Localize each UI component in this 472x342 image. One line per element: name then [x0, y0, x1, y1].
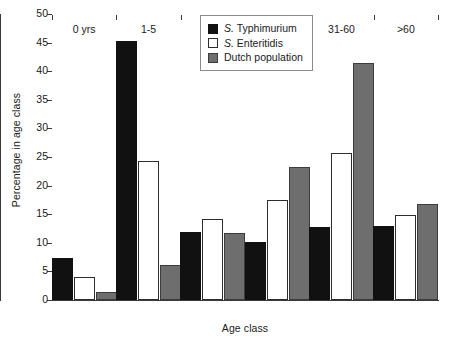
- y-axis-tick-label: 25: [36, 150, 48, 163]
- legend-item: S. Enteritidis: [208, 36, 303, 50]
- legend-swatch-icon: [208, 53, 218, 63]
- legend-item: Dutch population: [208, 51, 303, 65]
- legend-swatch-icon: [208, 38, 218, 48]
- bar: [138, 161, 159, 300]
- bar: [116, 41, 137, 300]
- bar: [373, 226, 394, 300]
- legend-item: S. Typhimurium: [208, 22, 303, 36]
- y-axis-tick-label: 30: [36, 121, 48, 134]
- legend-item-label: Dutch population: [224, 51, 303, 64]
- x-axis-tick-mark: [116, 15, 117, 20]
- bar: [74, 277, 95, 300]
- bar: [245, 242, 266, 300]
- bar: [309, 227, 330, 300]
- y-axis-tick-label: 10: [36, 236, 48, 249]
- bar: [395, 215, 416, 300]
- bar: [353, 63, 374, 300]
- chart-legend: S. TyphimuriumS. EnteritidisDutch popula…: [200, 15, 313, 71]
- x-axis-tick-label: 31-60: [328, 23, 355, 36]
- y-axis-tick-label: 5: [42, 264, 48, 277]
- y-axis-tick-label: 50: [36, 7, 48, 20]
- x-axis-tick-mark: [438, 15, 439, 20]
- y-axis-line: [0, 14, 1, 301]
- x-axis-tick-label: 0 yrs: [73, 23, 96, 36]
- x-axis-tick-mark: [52, 15, 53, 20]
- bar: [52, 258, 73, 300]
- x-axis-tick-mark: [374, 15, 375, 20]
- bar: [180, 232, 201, 300]
- bar: [331, 153, 352, 300]
- y-axis-tick-label: 45: [36, 36, 48, 49]
- x-axis-tick-label: >60: [397, 23, 415, 36]
- x-axis-tick-mark: [181, 15, 182, 20]
- y-axis-label: Percentage in age class: [8, 0, 24, 300]
- y-axis-tick-label: 15: [36, 207, 48, 220]
- y-axis-tick-label: 20: [36, 179, 48, 192]
- y-axis-tick-label: 0: [42, 293, 48, 306]
- bar-chart-figure: Percentage in age class 0510152025303540…: [0, 0, 472, 342]
- bar: [417, 204, 438, 300]
- bar: [289, 167, 310, 300]
- x-axis-tick-label: 1-5: [141, 23, 156, 36]
- bar: [96, 292, 117, 300]
- y-axis-tick-label: 35: [36, 93, 48, 106]
- bar: [202, 219, 223, 300]
- legend-swatch-icon: [208, 24, 218, 34]
- bar: [160, 265, 181, 300]
- bar: [267, 200, 288, 300]
- y-axis-tick-label: 40: [36, 64, 48, 77]
- x-axis-label: Age class: [52, 322, 438, 334]
- legend-item-label: S. Enteritidis: [224, 37, 283, 50]
- legend-item-label: S. Typhimurium: [224, 22, 297, 35]
- x-axis-line: [52, 300, 439, 301]
- bar: [224, 233, 245, 300]
